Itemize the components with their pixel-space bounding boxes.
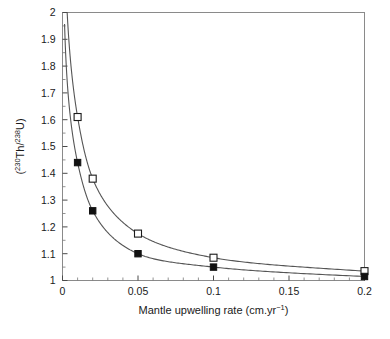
y-axis-title: (230Th/238U) [13, 118, 27, 174]
chart-figure: 11.11.21.31.41.51.61.71.81.9200.050.10.1… [0, 0, 390, 339]
data-point-open-square [89, 175, 96, 182]
y-tick-label: 1.1 [41, 248, 56, 260]
x-tick-label: 0.2 [357, 285, 372, 297]
data-point-open-square [135, 230, 142, 237]
plot-frame [63, 13, 365, 281]
x-tick-label: 0.05 [128, 285, 149, 297]
data-point-filled-square [210, 264, 216, 270]
caption-strip [0, 329, 390, 339]
series-curve-filled-square-series [65, 24, 365, 276]
data-point-filled-square [74, 159, 80, 165]
x-axis-title: Mantle upwelling rate (cm.yr−1) [139, 302, 289, 316]
y-tick-label: 1.4 [41, 167, 56, 179]
y-tick-label: 1.8 [41, 60, 56, 72]
chart-canvas: 11.11.21.31.41.51.61.71.81.9200.050.10.1… [0, 0, 390, 339]
x-tick-label: 0.1 [206, 285, 221, 297]
data-point-open-square [210, 254, 217, 261]
y-tick-label: 1.5 [41, 140, 56, 152]
x-tick-label: 0 [60, 285, 66, 297]
x-tick-label: 0.15 [279, 285, 300, 297]
y-tick-label: 1.2 [41, 221, 56, 233]
data-point-filled-square [135, 251, 141, 257]
y-tick-label: 1.9 [41, 33, 56, 45]
data-point-filled-square [361, 273, 367, 279]
series-curve-open-square-series [67, 13, 364, 272]
y-tick-label: 2 [50, 6, 56, 18]
y-tick-label: 1.6 [41, 114, 56, 126]
y-tick-label: 1.3 [41, 194, 56, 206]
data-point-filled-square [90, 208, 96, 214]
y-tick-label: 1 [50, 274, 56, 286]
data-point-open-square [74, 114, 81, 121]
y-tick-label: 1.7 [41, 87, 56, 99]
